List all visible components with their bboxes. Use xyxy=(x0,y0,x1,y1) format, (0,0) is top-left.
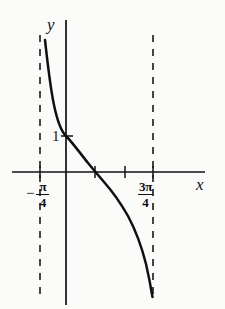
fraction-stack: π 4 xyxy=(36,180,49,209)
fraction-numerator: 3π xyxy=(138,180,153,194)
fraction-denominator: 4 xyxy=(142,195,149,209)
fraction-denominator: 4 xyxy=(40,195,47,209)
fraction-numerator: π xyxy=(39,180,48,194)
x-tick-label-three-pi-over-4: 3π 4 xyxy=(138,180,153,209)
plot-canvas xyxy=(0,0,225,309)
y-axis-label: y xyxy=(47,16,55,33)
graph-figure: y x 1 − π 4 3π 4 xyxy=(0,0,225,309)
x-axis-label: x xyxy=(196,176,204,193)
minus-sign-glyph: − xyxy=(26,186,34,203)
fraction-stack: 3π 4 xyxy=(138,180,153,209)
x-tick-label-minus-pi-over-4: − π 4 xyxy=(26,180,49,209)
y-tick-label-one: 1 xyxy=(52,129,60,144)
cotangent-curve xyxy=(45,40,153,297)
